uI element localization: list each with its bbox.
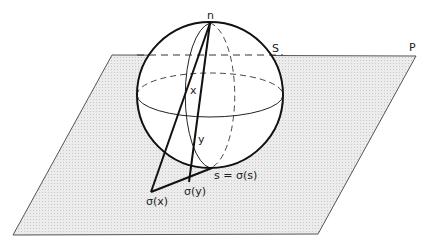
label-sigma-y: σ(y) xyxy=(184,185,206,198)
stereographic-projection-diagram: n S P x y σ(x) σ(y) s = σ(s) xyxy=(0,0,428,249)
label-plane: P xyxy=(409,41,416,54)
label-s-fixed: s = σ(s) xyxy=(214,169,257,182)
label-point-x: x xyxy=(190,84,197,97)
label-point-y: y xyxy=(198,133,205,146)
label-sphere: S xyxy=(272,42,279,55)
label-sigma-x: σ(x) xyxy=(146,195,168,208)
label-north-pole: n xyxy=(207,9,214,22)
